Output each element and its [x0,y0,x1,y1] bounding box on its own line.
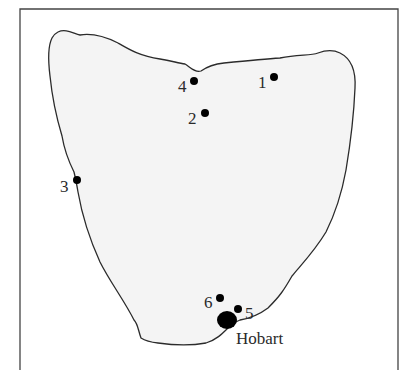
site-marker-1[interactable] [270,73,278,81]
site-marker-5[interactable] [234,305,242,313]
site-marker-6[interactable] [216,294,224,302]
site-label-4: 4 [178,78,187,95]
site-label-5: 5 [245,305,254,322]
site-label-6: 6 [204,294,213,311]
city-label-hobart: Hobart [236,330,283,347]
site-label-1: 1 [258,74,267,91]
site-label-3: 3 [60,178,69,195]
hobart-marker[interactable] [217,311,237,329]
site-marker-4[interactable] [190,77,198,85]
tasmania-outline [49,31,355,345]
site-marker-3[interactable] [73,176,81,184]
site-marker-2[interactable] [201,109,209,117]
site-label-2: 2 [188,110,197,127]
